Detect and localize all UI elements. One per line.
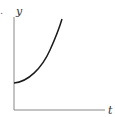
fragment-label: . xyxy=(0,5,3,16)
graph: . y t xyxy=(0,0,115,117)
curve xyxy=(14,19,62,83)
y-axis-label: y xyxy=(15,5,23,18)
x-axis-label: t xyxy=(108,104,113,117)
